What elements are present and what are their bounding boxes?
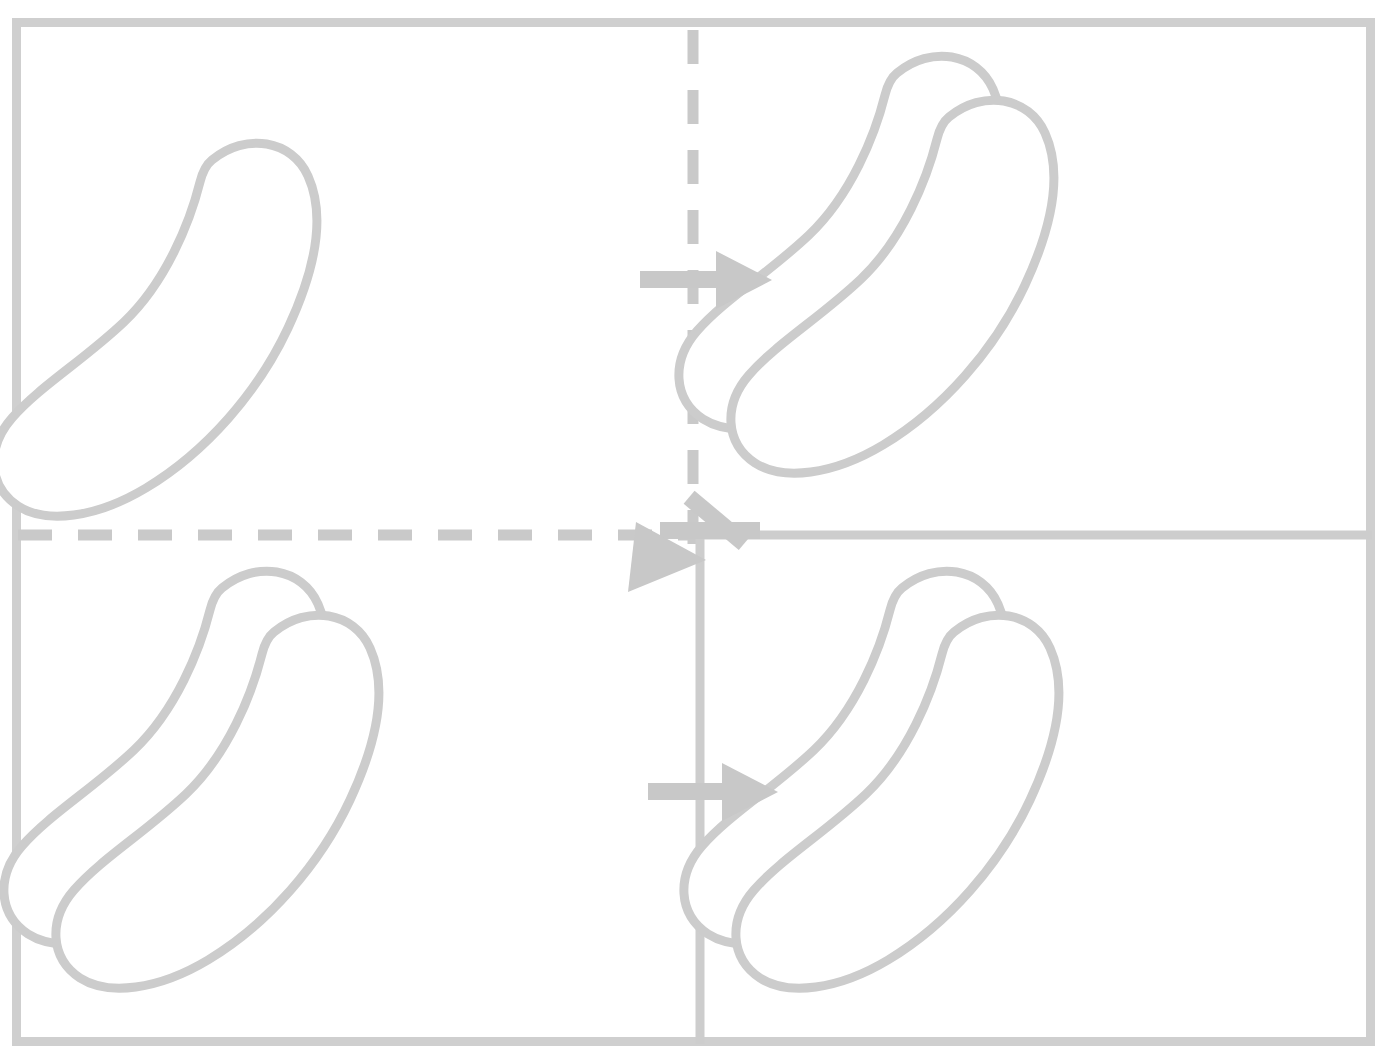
diagram-canvas — [0, 0, 1387, 1060]
